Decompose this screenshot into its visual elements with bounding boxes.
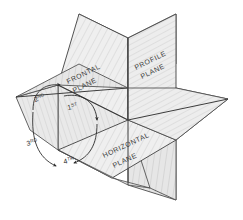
quadrant-third-suffix: RD xyxy=(30,137,38,143)
quadrant-label-fourth: 4TH xyxy=(63,156,75,165)
svg-text:4TH: 4TH xyxy=(63,156,75,165)
projection-planes-diagram: FRONTAL PLANE PROFILE PLANE HORIZONTAL P… xyxy=(0,0,243,220)
figure-root: FRONTAL PLANE PROFILE PLANE HORIZONTAL P… xyxy=(0,0,243,220)
quadrant-fourth-suffix: TH xyxy=(67,156,74,162)
